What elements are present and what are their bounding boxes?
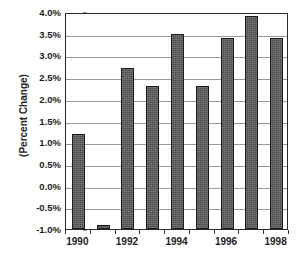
- bar: [270, 38, 283, 229]
- x-axis-tick-label: 1996: [215, 236, 237, 247]
- x-axis-tick-label: 1992: [116, 236, 138, 247]
- bar: [196, 86, 209, 229]
- y-axis-tick-label: 2.0%: [22, 95, 61, 105]
- y-axis-tick-label: -1.0%: [22, 225, 61, 235]
- x-axis-tick-label: 1990: [66, 236, 88, 247]
- bar: [97, 225, 110, 229]
- x-axis-tick-mark: [164, 230, 165, 234]
- y-axis-tick-labels: 4.0%3.5%3.0%2.5%2.0%1.5%1.0%0.5%0.0%-0.5…: [22, 13, 61, 230]
- bar-chart: (Percent Change) 4.0%3.5%3.0%2.5%2.0%1.5…: [0, 0, 305, 275]
- bar: [72, 134, 85, 229]
- x-axis-tick-label: 1998: [264, 236, 286, 247]
- bars-layer: [66, 14, 287, 229]
- x-axis-tick-mark: [90, 230, 91, 234]
- bar: [171, 34, 184, 229]
- plot-area: [65, 13, 288, 230]
- y-axis-tick-label: 0.5%: [22, 160, 61, 170]
- x-axis-tick-marks: [65, 230, 288, 235]
- y-axis-tick-label: 1.0%: [22, 138, 61, 148]
- bar: [221, 38, 234, 229]
- bar: [245, 16, 258, 229]
- x-axis-tick-mark: [288, 230, 289, 234]
- y-axis-tick-label: 2.5%: [22, 73, 61, 83]
- x-axis-tick-mark: [263, 230, 264, 234]
- bar: [146, 86, 159, 229]
- x-axis-tick-mark: [238, 230, 239, 234]
- x-axis-tick-mark: [65, 230, 66, 234]
- x-axis-tick-mark: [189, 230, 190, 234]
- x-axis-tick-mark: [139, 230, 140, 234]
- y-axis-tick-label: 3.0%: [22, 52, 61, 62]
- x-axis-tick-mark: [115, 230, 116, 234]
- y-axis-tick-label: 3.5%: [22, 30, 61, 40]
- y-axis-tick-label: 1.5%: [22, 117, 61, 127]
- y-axis-tick-label: 0.0%: [22, 182, 61, 192]
- bar: [121, 68, 134, 229]
- x-axis-tick-mark: [214, 230, 215, 234]
- y-axis-tick-label: 4.0%: [22, 8, 61, 18]
- x-axis-tick-label: 1994: [165, 236, 187, 247]
- x-axis-tick-labels: 19901992199419961998: [65, 236, 288, 254]
- y-axis-tick-label: -0.5%: [22, 204, 61, 214]
